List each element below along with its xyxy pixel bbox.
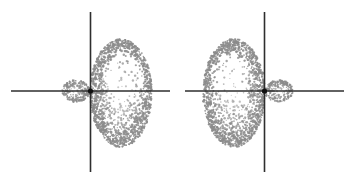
stipple-dot	[218, 128, 220, 130]
stipple-dot	[270, 96, 271, 97]
stipple-dot	[103, 135, 105, 137]
stipple-dot	[63, 88, 64, 89]
stipple-dot	[147, 102, 149, 104]
stipple-dot	[100, 58, 102, 60]
stipple-dot	[101, 54, 102, 55]
stipple-dot	[251, 92, 253, 94]
stipple-dot	[237, 50, 239, 52]
stipple-dot	[256, 84, 258, 86]
stipple-dot	[226, 110, 228, 112]
stipple-dot	[241, 81, 243, 83]
stipple-dot	[223, 76, 225, 78]
stipple-dot	[247, 51, 249, 53]
stipple-dot	[211, 72, 213, 74]
stipple-dot	[104, 137, 106, 139]
stipple-dot	[267, 84, 268, 85]
stipple-dot	[211, 83, 213, 85]
stipple-dot	[259, 113, 261, 115]
stipple-dot	[134, 133, 136, 135]
stipple-dot	[216, 60, 218, 62]
orbital-diagram-canvas	[0, 0, 354, 179]
stipple-dot	[252, 124, 253, 125]
stipple-dot	[208, 88, 209, 89]
stipple-dot	[106, 102, 108, 104]
stipple-dot	[143, 88, 145, 90]
stipple-dot	[79, 81, 81, 83]
stipple-dot	[96, 114, 98, 116]
stipple-dot	[251, 67, 252, 68]
stipple-dot	[105, 68, 107, 70]
stipple-dot	[97, 105, 98, 106]
stipple-dot	[94, 100, 96, 102]
stipple-dot	[241, 135, 242, 136]
stipple-dot	[98, 64, 99, 65]
stipple-dot	[222, 46, 223, 47]
stipple-dot	[225, 101, 227, 103]
stipple-dot	[150, 99, 152, 101]
stipple-dot	[123, 70, 125, 72]
stipple-dot	[213, 54, 215, 56]
stipple-dot	[249, 106, 250, 107]
stipple-dot	[146, 72, 147, 73]
stipple-dot	[248, 104, 249, 105]
stipple-dot	[122, 145, 124, 147]
stipple-dot	[240, 115, 242, 117]
stipple-dot	[107, 116, 109, 118]
stipple-dot	[120, 137, 123, 140]
stipple-dot	[226, 53, 228, 55]
stipple-dot	[289, 85, 290, 86]
stipple-dot	[142, 106, 144, 108]
stipple-dot	[250, 117, 252, 119]
stipple-dot	[95, 86, 96, 87]
stipple-dot	[93, 116, 94, 117]
stipple-dot	[148, 82, 150, 84]
stipple-dot	[213, 133, 214, 134]
stipple-dot	[133, 102, 135, 104]
stipple-dot	[209, 97, 211, 99]
stipple-dot	[117, 116, 119, 118]
stipple-dot	[233, 135, 235, 137]
stipple-dot	[100, 117, 102, 119]
stipple-dot	[114, 128, 115, 129]
stipple-dot	[259, 120, 262, 123]
stipple-dot	[226, 50, 227, 51]
stipple-dot	[258, 97, 260, 99]
stipple-dot	[139, 68, 141, 70]
stipple-dot	[268, 95, 269, 96]
stipple-dot	[141, 122, 143, 124]
stipple-dot	[141, 129, 144, 132]
stipple-dot	[254, 103, 256, 105]
stipple-dot	[212, 126, 214, 128]
stipple-dot	[109, 45, 110, 46]
stipple-dot	[277, 86, 279, 88]
stipple-dot	[95, 124, 97, 126]
stipple-dot	[223, 117, 226, 120]
stipple-dot	[119, 144, 120, 145]
stipple-dot	[258, 118, 259, 119]
stipple-dot	[246, 136, 248, 138]
orbital-diagram-svg	[0, 0, 354, 179]
stipple-dot	[119, 49, 121, 51]
stipple-dot	[287, 96, 289, 98]
stipple-dot	[239, 55, 241, 57]
stipple-dot	[120, 117, 122, 119]
stipple-dot	[257, 115, 259, 117]
stipple-dot	[247, 114, 249, 116]
stipple-dot	[218, 139, 220, 141]
stipple-dot	[125, 50, 126, 51]
stipple-dot	[146, 78, 148, 80]
stipple-dot	[141, 97, 143, 99]
stipple-dot	[80, 96, 82, 98]
stipple-dot	[254, 126, 256, 128]
stipple-dot	[127, 119, 129, 121]
stipple-dot	[240, 144, 242, 146]
stipple-dot	[122, 45, 124, 47]
stipple-dot	[112, 134, 114, 136]
stipple-dot	[121, 107, 122, 108]
stipple-dot	[76, 84, 78, 86]
stipple-dot	[259, 119, 261, 121]
stipple-dot	[207, 114, 209, 116]
stipple-dot	[149, 71, 150, 72]
stipple-dot	[116, 39, 117, 40]
stipple-dot	[220, 128, 222, 130]
